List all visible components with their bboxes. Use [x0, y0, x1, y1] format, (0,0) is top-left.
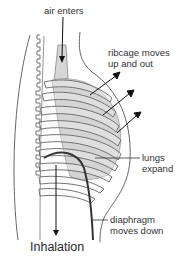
diagram-title: Inhalation [30, 240, 84, 254]
label-diaphragm-line2: moves down [110, 225, 163, 236]
label-lungs-line1: lungs [142, 152, 173, 163]
trachea [54, 45, 68, 82]
diaphragm-arrow-head [53, 230, 59, 236]
back-outline [14, 35, 30, 240]
label-diaphragm-line1: diaphragm [110, 214, 163, 225]
label-ribcage-line1: ribcage moves [108, 47, 170, 58]
label-lungs: lungs expand [142, 152, 173, 174]
label-ribcage: ribcage moves up and out [108, 47, 170, 69]
label-diaphragm: diaphragm moves down [110, 214, 163, 236]
label-lungs-line2: expand [142, 163, 173, 174]
label-air-enters: air enters [44, 5, 84, 16]
label-ribcage-line2: up and out [108, 58, 170, 69]
